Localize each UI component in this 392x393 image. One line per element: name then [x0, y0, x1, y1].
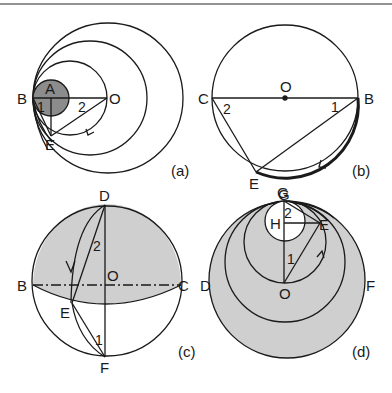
caption-d: (d) — [352, 343, 370, 360]
angle-2: 2 — [78, 99, 86, 115]
angle-1: 1 — [287, 251, 295, 267]
caption-a: (a) — [171, 162, 189, 179]
panel-d: G H E D O F 2 1 (d) — [200, 186, 375, 360]
label-e: E — [60, 304, 70, 321]
label-b: B — [364, 90, 374, 107]
label-g: G — [278, 186, 290, 203]
label-f: F — [100, 359, 109, 376]
label-e: E — [249, 175, 259, 192]
angle-2: 2 — [93, 238, 101, 254]
panel-c: D B O C E F 2 1 (c) — [17, 187, 196, 376]
caption-c: (c) — [178, 343, 196, 360]
geometry-figure: B A O E 1 2 (a) C B O E G 2 1 (b) D — [0, 0, 392, 393]
panel-b: C B O E G 2 1 (b) — [198, 25, 374, 201]
center-dot — [283, 96, 287, 100]
shaded-upper-hemisphere — [33, 204, 181, 304]
label-b: B — [17, 277, 27, 294]
label-h: H — [270, 215, 281, 232]
label-c: C — [178, 277, 189, 294]
label-c: C — [198, 90, 209, 107]
label-o: O — [280, 78, 292, 95]
angle-1: 1 — [95, 332, 103, 348]
label-a: A — [45, 80, 55, 97]
label-d: D — [200, 277, 211, 294]
angle-1: 1 — [331, 99, 339, 115]
angle-2: 2 — [284, 205, 292, 221]
angle-1: 1 — [37, 99, 45, 115]
line-be — [256, 98, 358, 172]
label-o: O — [279, 285, 291, 302]
bold-arc-eb — [256, 98, 358, 178]
caption-b: (b) — [352, 162, 370, 179]
label-o: O — [107, 267, 119, 284]
label-o: O — [109, 90, 121, 107]
line-ef — [72, 303, 105, 357]
label-e: E — [45, 136, 55, 153]
panel-a: B A O E 1 2 (a) — [17, 23, 189, 179]
label-d: D — [99, 187, 110, 204]
angle-2: 2 — [223, 101, 231, 117]
line-ce — [212, 98, 256, 172]
label-b: B — [17, 90, 27, 107]
arrow-icon — [86, 129, 94, 135]
label-f: F — [366, 277, 375, 294]
label-e: E — [319, 216, 329, 233]
